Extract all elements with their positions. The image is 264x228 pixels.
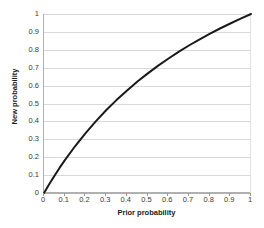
y-tick-label: 0.1 — [9, 171, 39, 179]
x-tickmark — [147, 193, 148, 196]
x-tickmark — [229, 193, 230, 196]
x-tick-label: 0.4 — [115, 195, 137, 205]
x-tickmark — [188, 193, 189, 196]
x-tickmark — [84, 193, 85, 196]
plot-area — [43, 14, 250, 193]
x-tick-label: 1 — [239, 195, 261, 205]
x-tick-label: 0.5 — [136, 195, 158, 205]
chart-container: 00.10.20.30.40.50.60.70.80.91 00.10.20.3… — [0, 0, 264, 228]
x-tick-label: 0.6 — [156, 195, 178, 205]
x-tickmark — [209, 193, 210, 196]
x-tick-label: 0.8 — [198, 195, 220, 205]
x-axis-title: Prior probability — [43, 208, 250, 217]
x-tick-label: 0.7 — [177, 195, 199, 205]
gridline-y — [44, 193, 251, 194]
x-tickmark — [64, 193, 65, 196]
x-tickmark — [250, 193, 251, 196]
y-tick-label: 0.9 — [9, 28, 39, 36]
y-tick-label: 0.2 — [9, 153, 39, 161]
x-tick-label: 0.1 — [53, 195, 75, 205]
x-tick-label: 0.9 — [218, 195, 240, 205]
y-axis-title: New probability — [10, 47, 19, 147]
curve-series-new-probability — [44, 14, 251, 193]
x-tickmark — [105, 193, 106, 196]
x-tick-label: 0.3 — [94, 195, 116, 205]
y-tick-label: 1 — [9, 10, 39, 18]
x-tick-label: 0.2 — [73, 195, 95, 205]
x-tickmark — [43, 193, 44, 196]
x-tickmark — [167, 193, 168, 196]
x-tickmark — [126, 193, 127, 196]
x-tick-label: 0 — [32, 195, 54, 205]
x-axis-tick-labels: 00.10.20.30.40.50.60.70.80.91 — [43, 195, 250, 207]
